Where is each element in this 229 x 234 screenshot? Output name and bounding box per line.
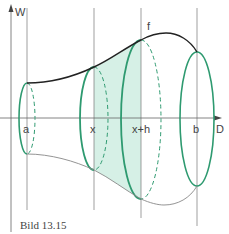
ellipse-a-back <box>27 83 35 154</box>
d-axis-label: D <box>216 123 224 135</box>
ellipse-x-front <box>80 67 94 170</box>
curve-label-f: f <box>147 20 151 32</box>
tick-label-a: a <box>23 123 30 135</box>
tick-label-x-plus-h: x+h <box>132 123 150 135</box>
ellipse-x-plus-h-back <box>141 40 161 199</box>
solid-of-revolution-diagram: W D f a x x+h b <box>0 0 229 234</box>
tick-label-x: x <box>90 123 96 135</box>
ellipse-a-front <box>19 83 27 154</box>
tick-label-b: b <box>193 123 199 135</box>
figure-caption: Bild 13.15 <box>20 219 66 231</box>
w-axis-arrow-icon <box>9 4 14 12</box>
d-axis-arrow-icon <box>214 116 222 121</box>
w-axis-label: W <box>15 6 26 18</box>
